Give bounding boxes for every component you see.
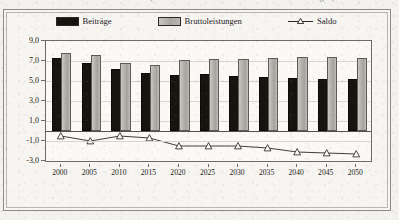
x-axis-tick <box>178 164 179 167</box>
bar-bruttoleistungen <box>268 58 278 131</box>
y-axis-label: 9,0 <box>29 36 39 45</box>
bar-group <box>229 41 246 161</box>
bar-group <box>111 41 128 161</box>
bar-group <box>259 41 276 161</box>
bar-bruttoleistungen <box>357 58 367 131</box>
y-axis-label: 1,0 <box>29 116 39 125</box>
bar-bruttoleistungen <box>297 57 307 131</box>
x-axis-tick <box>60 164 61 167</box>
x-axis: 2000200520102015202020252030203520402045… <box>45 164 370 184</box>
x-axis-tick <box>326 164 327 167</box>
y-axis-label: 3,0 <box>29 96 39 105</box>
x-axis-tick <box>208 164 209 167</box>
bar-bruttoleistungen <box>120 63 130 131</box>
x-axis-tick <box>296 164 297 167</box>
bar-bruttoleistungen <box>327 57 337 131</box>
x-axis-label: 2010 <box>111 168 126 177</box>
bar-bruttoleistungen <box>91 55 101 131</box>
x-axis-label: 2035 <box>259 168 274 177</box>
bar-group <box>141 41 158 161</box>
x-axis-tick <box>148 164 149 167</box>
bar-bruttoleistungen <box>179 60 189 131</box>
x-axis-label: 2030 <box>229 168 244 177</box>
bar-group <box>52 41 69 161</box>
x-axis-label: 2015 <box>141 168 156 177</box>
figure-title-strip: der Jahre 2000 und 2050 (ohne Bundeszusc… <box>0 0 399 9</box>
y-axis-label: 5,0 <box>29 76 39 85</box>
bar-bruttoleistungen <box>61 53 71 131</box>
x-axis-tick <box>267 164 268 167</box>
bar-group <box>348 41 365 161</box>
y-axis-label: -3,0 <box>26 156 39 165</box>
x-axis-label: 2020 <box>170 168 185 177</box>
bar-bruttoleistungen <box>209 59 219 131</box>
y-axis: 9,07,05,03,01,0-1,0-3,0 <box>3 9 45 209</box>
x-axis-label: 2045 <box>318 168 333 177</box>
bar-group <box>318 41 335 161</box>
x-axis-tick <box>355 164 356 167</box>
bar-bruttoleistungen <box>238 59 248 131</box>
chart-figure: der Jahre 2000 und 2050 (ohne Bundeszusc… <box>0 0 399 220</box>
plot-area-wrapper: 9,07,05,03,01,0-1,0-3,0 2000200520102015… <box>3 9 389 209</box>
y-axis-label: -1,0 <box>26 136 39 145</box>
figure-title: der Jahre 2000 und 2050 (ohne Bundeszusc… <box>65 0 335 2</box>
x-axis-label: 2000 <box>52 168 67 177</box>
x-axis-tick <box>119 164 120 167</box>
bar-bruttoleistungen <box>150 65 160 131</box>
bar-group <box>170 41 187 161</box>
y-axis-label: 7,0 <box>29 56 39 65</box>
x-axis-label: 2025 <box>200 168 215 177</box>
x-axis-label: 2040 <box>289 168 304 177</box>
bar-group <box>200 41 217 161</box>
bar-group <box>288 41 305 161</box>
x-axis-label: 2005 <box>82 168 97 177</box>
plot-area <box>45 40 372 162</box>
bar-group <box>82 41 99 161</box>
x-axis-tick <box>89 164 90 167</box>
x-axis-tick <box>237 164 238 167</box>
x-axis-label: 2050 <box>348 168 363 177</box>
